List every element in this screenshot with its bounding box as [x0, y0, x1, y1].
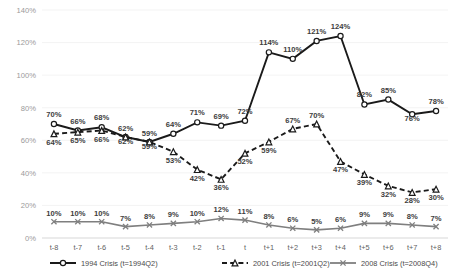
legend-item-2008[interactable]: 2008 Crisis (t=2008Q4): [330, 259, 438, 268]
data-point-label: 9%: [383, 210, 394, 219]
data-point-marker: [433, 108, 438, 113]
data-point-label: 10%: [190, 209, 205, 218]
data-point-label: 66%: [70, 117, 85, 126]
data-point-marker: [266, 139, 272, 145]
x-axis-tick-label: t+2: [288, 243, 298, 252]
x-axis-tick-label: t+1: [264, 243, 274, 252]
legend-label: 2001 Crisis (t=2001Q2): [253, 259, 330, 268]
data-point-marker: [60, 260, 65, 265]
data-point-label: 78%: [428, 97, 443, 106]
series-2008: 10%10%10%7%8%9%10%12%11%8%6%5%6%9%9%8%7%: [46, 205, 441, 232]
legend-label: 1994 Crisis (t=1994Q2): [81, 259, 158, 268]
data-point-marker: [195, 120, 200, 125]
data-point-label: 66%: [94, 135, 109, 144]
data-point-label: 9%: [168, 210, 179, 219]
y-axis-tick-label: 120%: [17, 38, 37, 47]
x-axis-labels: t-8t-7t-6t-5t-4t-3t-2t-1tt+1t+2t+3t+4t+5…: [50, 243, 442, 252]
y-axis-tick-label: 140%: [17, 6, 37, 15]
x-axis-tick-label: t+8: [431, 243, 441, 252]
data-point-label: 11%: [238, 207, 253, 216]
data-point-label: 64%: [46, 138, 61, 147]
data-point-marker: [338, 159, 344, 165]
data-point-marker: [290, 126, 296, 132]
y-axis-tick-label: 100%: [17, 71, 37, 80]
y-axis-tick-label: 20%: [21, 201, 36, 210]
x-axis-tick-label: t: [244, 243, 246, 252]
data-point-marker: [409, 190, 415, 196]
data-point-label: 30%: [428, 193, 443, 202]
chart-container: 0%20%40%60%80%100%120%140%t-8t-7t-6t-5t-…: [0, 0, 451, 275]
x-axis-tick-label: t+4: [335, 243, 345, 252]
x-axis-tick-label: t-5: [121, 243, 130, 252]
data-point-label: 121%: [307, 27, 327, 36]
x-axis-tick-label: t-4: [145, 243, 154, 252]
data-point-marker: [338, 33, 343, 38]
data-point-label: 10%: [46, 209, 61, 218]
chart-svg: 0%20%40%60%80%100%120%140%t-8t-7t-6t-5t-…: [0, 0, 451, 275]
data-point-label: 10%: [94, 209, 109, 218]
data-point-label: 32%: [381, 190, 396, 199]
data-point-marker: [171, 131, 176, 136]
data-point-marker: [242, 118, 247, 123]
data-point-label: 8%: [407, 212, 418, 221]
data-point-marker: [314, 38, 319, 43]
data-point-label: 70%: [309, 111, 324, 120]
data-point-label: 68%: [94, 113, 109, 122]
data-point-label: 52%: [237, 157, 252, 166]
data-point-label: 8%: [263, 212, 274, 221]
data-point-marker: [266, 50, 271, 55]
x-axis-tick-label: t-3: [169, 243, 178, 252]
data-point-marker: [386, 97, 391, 102]
data-point-marker: [362, 102, 367, 107]
data-point-label: 62%: [118, 124, 133, 133]
data-point-label: 59%: [261, 146, 276, 155]
x-axis-tick-label: t-6: [97, 243, 106, 252]
data-point-label: 6%: [287, 215, 298, 224]
data-point-label: 9%: [359, 210, 370, 219]
data-point-label: 114%: [259, 38, 278, 47]
data-point-label: 71%: [190, 108, 205, 117]
data-point-label: 67%: [285, 116, 300, 125]
y-axis-tick-label: 40%: [21, 169, 36, 178]
data-point-label: 110%: [283, 45, 302, 54]
y-axis-tick-label: 80%: [21, 104, 36, 113]
data-point-label: 64%: [166, 120, 181, 129]
data-point-label: 7%: [431, 214, 442, 223]
x-axis-tick-label: t-7: [74, 243, 83, 252]
legend-item-2001[interactable]: 2001 Crisis (t=2001Q2): [222, 259, 330, 268]
data-point-marker: [242, 150, 248, 156]
data-point-marker: [362, 172, 368, 178]
data-point-label: 28%: [405, 196, 420, 205]
data-point-label: 69%: [214, 112, 229, 121]
data-point-label: 6%: [335, 215, 346, 224]
data-point-label: 65%: [70, 136, 85, 145]
data-point-marker: [232, 260, 238, 266]
x-axis-tick-label: t+5: [359, 243, 369, 252]
x-axis-tick-label: t+6: [383, 243, 393, 252]
data-point-label: 124%: [331, 22, 351, 31]
data-point-label: 8%: [144, 212, 155, 221]
data-point-label: 10%: [70, 209, 85, 218]
series-line: [54, 36, 436, 142]
data-point-marker: [219, 123, 224, 128]
data-point-label: 12%: [214, 205, 229, 214]
x-axis-tick-label: t+7: [407, 243, 417, 252]
data-point-label: 76%: [405, 114, 420, 123]
x-axis-tick-label: t-8: [50, 243, 59, 252]
x-axis-tick-label: t-2: [193, 243, 202, 252]
y-axis-tick-label: 0%: [25, 234, 36, 243]
data-point-label: 53%: [166, 156, 181, 165]
data-point-label: 36%: [214, 183, 229, 192]
data-point-marker: [170, 149, 176, 155]
data-point-label: 72%: [237, 107, 252, 116]
data-point-label: 70%: [46, 110, 61, 119]
data-point-marker: [385, 183, 391, 189]
data-point-marker: [314, 121, 320, 127]
data-point-label: 59%: [142, 129, 157, 138]
data-point-label: 7%: [120, 214, 131, 223]
series-2001: 64%65%66%62%59%53%42%36%52%59%67%70%47%3…: [46, 111, 444, 205]
data-point-label: 85%: [381, 86, 396, 95]
data-point-marker: [433, 186, 439, 192]
legend-item-1994[interactable]: 1994 Crisis (t=1994Q2): [50, 259, 158, 268]
y-axis-tick-label: 60%: [21, 136, 36, 145]
